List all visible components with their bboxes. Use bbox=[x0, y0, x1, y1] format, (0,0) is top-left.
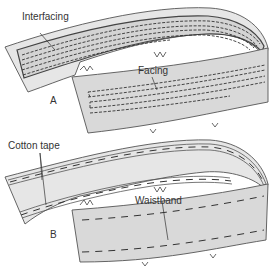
panel-a-letter: A bbox=[50, 95, 57, 106]
panel-a bbox=[5, 8, 268, 133]
panel-b-letter: B bbox=[50, 229, 57, 240]
label-cotton-tape: Cotton tape bbox=[8, 140, 60, 151]
label-waistband: Waistband bbox=[135, 195, 182, 206]
facing-band bbox=[72, 48, 268, 133]
label-interfacing: Interfacing bbox=[22, 11, 69, 22]
waistband-diagram: Interfacing Facing A Cotton tape Waistba… bbox=[0, 0, 272, 271]
label-facing: Facing bbox=[138, 65, 168, 76]
